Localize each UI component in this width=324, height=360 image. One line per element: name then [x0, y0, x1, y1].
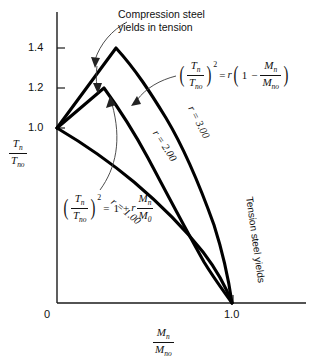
- y-axis-title-numerator-sub: n: [19, 143, 23, 152]
- equation-top-equals: =: [217, 70, 227, 81]
- equation-top-rhs-num-sub: n: [273, 65, 277, 74]
- equation-top-paren-open: (: [179, 63, 184, 87]
- equation-bottom-equals: =: [101, 203, 111, 214]
- equation-bottom-rhs-den: M: [139, 209, 148, 221]
- equation-top-rhs-paren-open: (: [233, 63, 238, 87]
- x-tick-label-0: 0: [44, 308, 50, 320]
- equation-bottom-one: 1: [112, 203, 122, 214]
- x-axis-title-numerator-sub: n: [166, 332, 170, 341]
- y-axis-title-denominator-sub: no: [17, 160, 24, 169]
- equation-top-rhs-den-sub: no: [272, 82, 279, 91]
- equation-top-r: r: [228, 68, 232, 80]
- y-tick-label-1-0: 1.0: [28, 121, 43, 133]
- compression-steel-annotation-line1: Compression steel: [118, 8, 205, 21]
- x-axis-title-denominator-sub: no: [164, 349, 171, 358]
- equation-bottom-paren-open: (: [63, 196, 68, 220]
- equation-bottom-exponent: 2: [97, 194, 101, 202]
- equation-top-minus: −: [249, 70, 259, 81]
- x-axis-title-numerator: M: [157, 326, 166, 338]
- equation-bottom-plus: +: [121, 203, 131, 214]
- equation-bottom-rhs-num: M: [139, 192, 148, 204]
- equation-top-one: 1: [240, 70, 250, 81]
- equation-bottom-rhs-num-sub: n: [148, 198, 152, 207]
- y-tick-label-1-4: 1.4: [28, 41, 43, 53]
- x-tick-label-1-0: 1.0: [224, 308, 239, 320]
- equation-top: ( Tn Tno )2=r(1− Mn Mno ): [178, 60, 290, 90]
- equation-bottom-r: r: [131, 201, 135, 213]
- equation-bottom-lhs-den-sub: no: [79, 215, 86, 224]
- y-axis-title: Tn Tno: [8, 138, 28, 168]
- compression-steel-annotation-line2: yields in tension: [118, 21, 205, 34]
- equation-top-rhs-paren-close: ): [284, 63, 289, 87]
- equation-bottom-lhs-num-sub: n: [81, 198, 85, 207]
- y-tick-label-1-2: 1.2: [28, 81, 43, 93]
- x-axis-title-denominator: M: [155, 343, 164, 355]
- equation-top-exponent: 2: [213, 61, 217, 69]
- compression-steel-annotation: Compression steel yields in tension: [118, 8, 205, 33]
- bottom-equation-leader: [100, 104, 117, 190]
- equation-top-lhs-num-sub: n: [197, 65, 201, 74]
- compression-note-arrowhead: [91, 57, 100, 68]
- equation-bottom-rhs-den-sub: 0: [148, 215, 152, 224]
- plot-area: [0, 0, 324, 360]
- equation-top-paren-close: ): [207, 63, 212, 87]
- equation-bottom-paren-close: ): [91, 196, 96, 220]
- interaction-diagram-figure: 1.4 1.2 1.0 0 1.0 Tn Tno Mn Mno Compress…: [0, 0, 324, 360]
- equation-top-rhs-den: M: [262, 76, 271, 88]
- equation-top-lhs-den-sub: no: [195, 82, 202, 91]
- equation-bottom: ( Tn Tno )2=1+r Mn M0: [62, 193, 154, 223]
- x-axis-title: Mn Mno: [152, 327, 175, 357]
